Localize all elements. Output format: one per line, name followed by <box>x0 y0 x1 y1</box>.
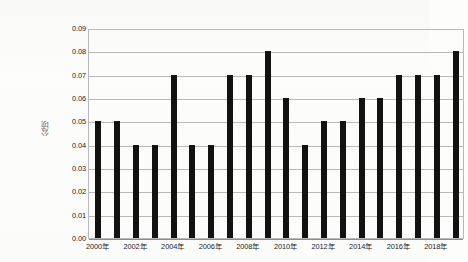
bar <box>453 51 459 238</box>
x-axis-tick-label: 2016年 <box>387 242 410 251</box>
y-axis-tick-labels: 0.000.010.020.030.040.050.060.070.080.09 <box>54 26 86 242</box>
x-axis-tick-label: 2006年 <box>199 242 222 251</box>
y-axis-tick-label: 0.05 <box>54 118 86 126</box>
y-axis-tick-label: 0.01 <box>54 212 86 220</box>
y-axis-tick-label: 0.02 <box>54 188 86 196</box>
y-axis-tick-label: 0.09 <box>54 25 86 33</box>
y-axis-tick-label: 0.07 <box>54 72 86 80</box>
bar <box>246 75 252 238</box>
bar <box>114 121 120 238</box>
y-axis-tick-label: 0.06 <box>54 95 86 103</box>
bar <box>434 75 440 238</box>
x-axis-tick-label: 2008年 <box>236 242 259 251</box>
x-axis-tick-labels: 2000年2002年2004年2006年2008年2010年2012年2014年… <box>88 242 464 256</box>
x-axis-tick-label: 2004年 <box>161 242 184 251</box>
bars-layer <box>89 29 463 238</box>
bar <box>133 145 139 238</box>
bar <box>340 121 346 238</box>
bar <box>396 75 402 238</box>
x-axis-tick-label: 2000年 <box>86 242 109 251</box>
plot-area <box>88 29 464 239</box>
bar <box>208 145 214 238</box>
x-axis-tick-label: 2018年 <box>424 242 447 251</box>
bar <box>321 121 327 238</box>
y-axis-tick-label: 0.04 <box>54 142 86 150</box>
bar <box>415 75 421 238</box>
x-axis-tick-label: 2002年 <box>124 242 147 251</box>
bar-chart-figure: 公顷 0.000.010.020.030.040.050.060.070.080… <box>40 16 468 262</box>
y-axis-tick-label: 0.08 <box>54 48 86 56</box>
y-axis-tick-label: 0.03 <box>54 165 86 173</box>
bar <box>359 98 365 238</box>
bar <box>265 51 271 238</box>
bar <box>152 145 158 238</box>
bar <box>189 145 195 238</box>
x-axis-tick-label: 2010年 <box>274 242 297 251</box>
y-axis-tick-label: 0.00 <box>54 235 86 243</box>
x-axis-tick-label: 2012年 <box>312 242 335 251</box>
bar <box>171 75 177 238</box>
bar <box>95 121 101 238</box>
axis-baseline <box>89 239 463 240</box>
bar <box>302 145 308 238</box>
bar <box>227 75 233 238</box>
y-axis-title: 公顷 <box>41 112 54 146</box>
bar <box>377 98 383 238</box>
x-axis-tick-label: 2014年 <box>349 242 372 251</box>
bar <box>283 98 289 238</box>
